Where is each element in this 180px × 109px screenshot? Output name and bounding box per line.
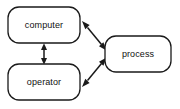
edge-operator-process-line [88,64,102,81]
diagram-canvas: computer operator process [0,0,180,109]
arrowhead-up-to-computer [41,43,47,50]
node-computer[interactable]: computer [8,7,80,43]
node-operator-label: operator [27,77,61,87]
node-process-label: process [122,49,155,59]
node-process[interactable]: process [105,36,171,72]
diagram-svg: computer operator process [0,0,180,109]
node-computer-label: computer [25,20,63,30]
edge-operator-process [82,58,107,88]
edge-computer-process [82,21,107,51]
node-operator[interactable]: operator [8,64,80,100]
edge-computer-operator [41,43,47,65]
edge-computer-process-line [88,28,102,45]
